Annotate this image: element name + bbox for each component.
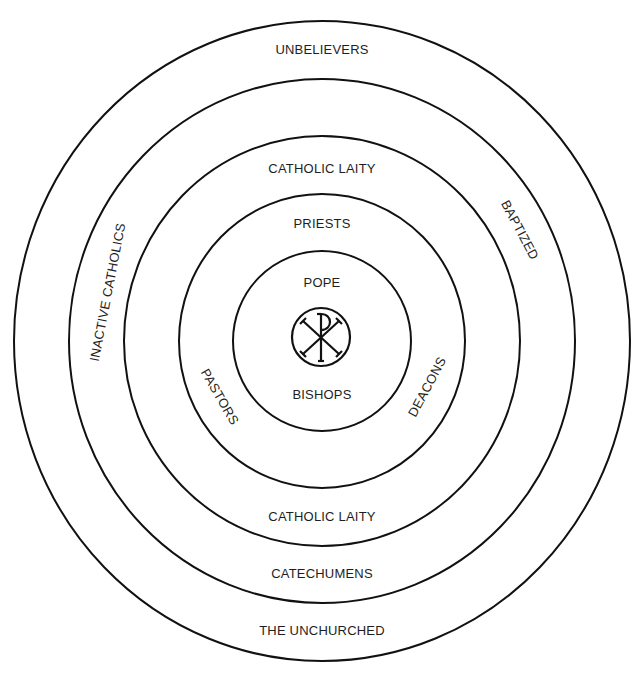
label-pope: POPE bbox=[304, 275, 341, 290]
label-pastors: PASTORS bbox=[198, 366, 242, 428]
label-catechumens: CATECHUMENS bbox=[271, 566, 373, 581]
label-unbelievers: UNBELIEVERS bbox=[275, 42, 368, 57]
label-the-unchurched: THE UNCHURCHED bbox=[259, 623, 385, 638]
concentric-church-diagram: UNBELIEVERS THE UNCHURCHED INACTIVE CATH… bbox=[0, 0, 644, 675]
chi-rho-icon bbox=[292, 308, 350, 366]
label-baptized: BAPTIZED bbox=[498, 198, 542, 263]
label-bishops: BISHOPS bbox=[292, 387, 351, 402]
label-catholic-laity-bottom: CATHOLIC LAITY bbox=[268, 509, 375, 524]
label-deacons: DEACONS bbox=[405, 354, 449, 419]
label-priests: PRIESTS bbox=[293, 216, 350, 231]
label-catholic-laity-top: CATHOLIC LAITY bbox=[268, 161, 375, 176]
label-inactive-catholics: INACTIVE CATHOLICS bbox=[87, 222, 129, 363]
